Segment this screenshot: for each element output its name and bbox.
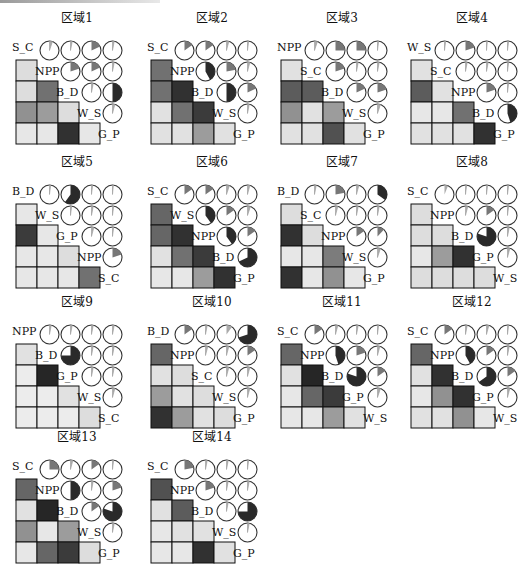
correlation-pie bbox=[82, 481, 101, 500]
correlation-square bbox=[193, 246, 214, 267]
correlation-pie bbox=[368, 104, 387, 123]
correlation-pie bbox=[217, 185, 236, 204]
correlation-pie bbox=[347, 206, 366, 225]
correlation-pie bbox=[196, 206, 215, 225]
variable-label: B_D bbox=[56, 86, 79, 99]
correlation-square bbox=[172, 521, 193, 542]
variable-label: B_D bbox=[12, 185, 35, 198]
correlation-pie bbox=[82, 83, 101, 102]
correlation-square bbox=[37, 123, 58, 144]
correlation-square bbox=[344, 407, 365, 428]
variable-label: G_P bbox=[493, 128, 515, 141]
correlation-square bbox=[58, 521, 79, 542]
correlation-pie bbox=[368, 346, 387, 365]
correlation-panel: 区域1S_CNPPB_DW_SG_P bbox=[0, 8, 130, 144]
correlation-pie bbox=[477, 325, 496, 344]
correlation-square bbox=[432, 267, 453, 288]
variable-label: NPP bbox=[191, 230, 216, 243]
correlation-square bbox=[474, 267, 495, 288]
correlation-pie bbox=[61, 62, 80, 81]
correlation-pie bbox=[498, 104, 517, 123]
variable-label: NPP bbox=[170, 349, 195, 362]
correlation-pie bbox=[498, 248, 517, 267]
correlation-pie bbox=[196, 62, 215, 81]
correlation-square bbox=[214, 267, 235, 288]
correlation-square bbox=[302, 407, 323, 428]
correlation-square bbox=[411, 344, 432, 365]
correlation-pie bbox=[456, 41, 475, 60]
correlation-square bbox=[151, 81, 172, 102]
correlation-pie bbox=[40, 325, 59, 344]
correlation-pie bbox=[103, 367, 122, 386]
correlation-square bbox=[344, 267, 365, 288]
correlation-pie bbox=[347, 325, 366, 344]
correlation-pie bbox=[103, 325, 122, 344]
correlation-square bbox=[58, 267, 79, 288]
correlation-square bbox=[16, 81, 37, 102]
correlation-square bbox=[79, 123, 100, 144]
variable-label: B_D bbox=[35, 349, 58, 362]
correlation-panel: 区域14S_CNPPB_DW_SG_P bbox=[135, 427, 265, 563]
correlation-pie bbox=[61, 325, 80, 344]
correlation-square bbox=[453, 246, 474, 267]
variable-label: NPP bbox=[277, 41, 302, 54]
correlation-pie bbox=[347, 185, 366, 204]
correlation-pie bbox=[82, 185, 101, 204]
correlation-pie bbox=[368, 206, 387, 225]
correlation-pie bbox=[435, 325, 454, 344]
correlation-square bbox=[411, 267, 432, 288]
variable-label: S_C bbox=[12, 41, 33, 54]
variable-label: S_C bbox=[300, 209, 321, 222]
correlation-square bbox=[432, 407, 453, 428]
correlation-square bbox=[432, 102, 453, 123]
correlation-pie bbox=[82, 227, 101, 246]
correlation-square bbox=[214, 123, 235, 144]
correlation-square bbox=[16, 500, 37, 521]
correlation-square bbox=[302, 102, 323, 123]
correlation-pie bbox=[217, 62, 236, 81]
correlation-pie bbox=[40, 460, 59, 479]
correlation-pie bbox=[196, 185, 215, 204]
correlation-square bbox=[453, 407, 474, 428]
variable-label: S_C bbox=[12, 460, 33, 473]
correlation-square bbox=[16, 479, 37, 500]
correlation-pie bbox=[456, 62, 475, 81]
correlation-pie bbox=[82, 206, 101, 225]
correlation-square bbox=[16, 521, 37, 542]
correlation-square bbox=[411, 204, 432, 225]
correlation-pie bbox=[238, 185, 257, 204]
variable-label: B_D bbox=[56, 505, 79, 518]
correlation-panel: 区域5B_DW_SG_PNPPS_C bbox=[0, 152, 130, 288]
correlation-square bbox=[172, 542, 193, 563]
variable-label: G_P bbox=[233, 128, 255, 141]
variable-label: W_S bbox=[35, 209, 59, 222]
correlation-square bbox=[58, 246, 79, 267]
correlation-square bbox=[16, 267, 37, 288]
correlation-square bbox=[281, 102, 302, 123]
correlation-square bbox=[323, 102, 344, 123]
correlation-pie bbox=[498, 367, 517, 386]
correlation-square bbox=[16, 102, 37, 123]
correlation-square bbox=[79, 267, 100, 288]
correlation-pie bbox=[61, 185, 80, 204]
correlation-square bbox=[281, 225, 302, 246]
correlation-square bbox=[281, 267, 302, 288]
correlation-panel: 区域7B_DS_CNPPW_SG_P bbox=[265, 152, 395, 288]
variable-label: S_C bbox=[147, 41, 168, 54]
correlation-square bbox=[172, 123, 193, 144]
variable-label: B_D bbox=[191, 86, 214, 99]
variable-label: W_S bbox=[77, 391, 101, 404]
variable-label: NPP bbox=[451, 86, 476, 99]
correlation-pie bbox=[456, 185, 475, 204]
correlation-square bbox=[432, 225, 453, 246]
correlation-pie bbox=[435, 185, 454, 204]
variable-label: S_C bbox=[98, 272, 119, 285]
correlation-pie bbox=[368, 325, 387, 344]
correlation-pie bbox=[196, 41, 215, 60]
correlation-square bbox=[411, 365, 432, 386]
correlation-pie bbox=[326, 41, 345, 60]
correlation-pie bbox=[477, 346, 496, 365]
variable-label: B_D bbox=[321, 86, 344, 99]
correlation-pie bbox=[61, 41, 80, 60]
correlation-square bbox=[16, 204, 37, 225]
